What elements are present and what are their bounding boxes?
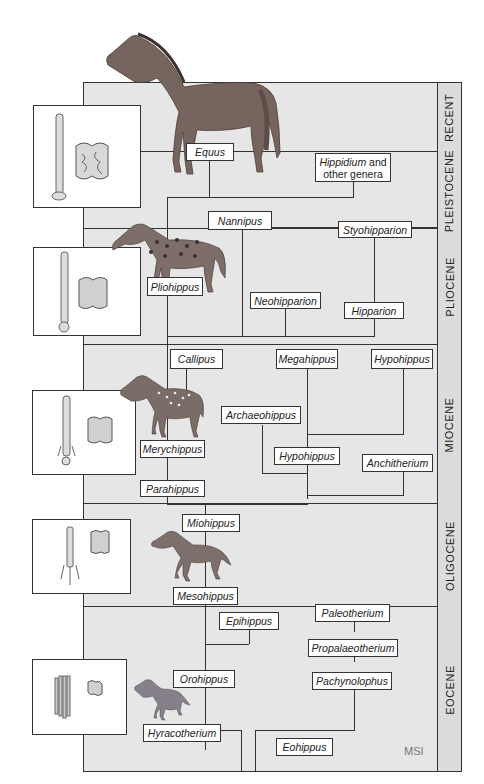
genus-eohippus: Eohippus [276, 738, 333, 756]
equus-horse-illustration [80, 20, 290, 195]
connector [374, 237, 375, 302]
boundary-oligocene-eocene [83, 606, 462, 607]
boundary-pliocene-miocene [83, 344, 462, 345]
genus-orohippus: Orohippus [173, 670, 235, 688]
connector [249, 630, 250, 644]
connector [205, 644, 249, 645]
epoch-pleistocene: PLEISTOCENE [438, 152, 461, 229]
connector [167, 336, 375, 337]
connector [354, 622, 355, 632]
genus-propalaeotherium: Propalaeotherium [308, 639, 398, 657]
genus-megahippus: Megahippus [276, 349, 338, 369]
genus-hippidium-and-other-genera: Hippidium and other genera [315, 153, 391, 182]
genus-callipus: Callipus [170, 349, 223, 369]
epoch-eocene: EOCENE [438, 607, 461, 773]
foot-bones-and-molar-icon [33, 520, 130, 593]
genus-paleotherium: Paleotherium [315, 604, 390, 622]
genus-hippidium: Hippidium [319, 156, 366, 168]
connector [307, 495, 404, 496]
connector [167, 504, 308, 505]
genus-merychippus: Merychippus [140, 440, 205, 458]
genus-pachynolophus: Pachynolophus [312, 672, 392, 690]
epoch-pliocene: PLIOCENE [438, 229, 461, 345]
connector [272, 227, 338, 228]
genus-hyracotherium: Hyracotherium [143, 724, 221, 742]
genus-pliohippus: Pliohippus [147, 277, 203, 296]
inset-oligocene-foot-tooth [32, 519, 131, 594]
genus-anchitherium: Anchitherium [362, 454, 433, 472]
connector [255, 730, 355, 731]
connector [285, 305, 286, 336]
mesohippus-horse-illustration [150, 524, 240, 594]
connector [255, 730, 256, 772]
connector [403, 369, 404, 434]
epoch-oligocene: OLIGOCENE [438, 504, 461, 607]
genus-parahippus: Parahippus [140, 480, 205, 497]
connector [354, 690, 355, 730]
foot-bones-and-molar-icon [33, 660, 126, 734]
connector [412, 227, 438, 228]
connector [242, 230, 243, 336]
genus-nannipus: Nannipus [208, 211, 272, 230]
genus-hypohippus-lower: Hypohippus [274, 447, 340, 465]
horse-evolution-diagram: RECENT PLEISTOCENE PLIOCENE MIOCENE OLIG… [0, 0, 484, 784]
epoch-recent: RECENT [438, 83, 461, 152]
epoch-column: RECENT PLEISTOCENE PLIOCENE MIOCENE OLIG… [437, 82, 462, 772]
genus-neohipparion: Neohipparion [250, 292, 321, 309]
artist-signature: MSI [404, 745, 424, 757]
connector [307, 434, 404, 435]
genus-epihippus: Epihippus [219, 612, 279, 630]
connector [403, 471, 404, 495]
merychippus-horse-illustration [117, 365, 212, 440]
connector [354, 657, 355, 662]
genus-archaeohippus: Archaeohippus [221, 406, 301, 424]
connector [262, 473, 308, 474]
connector [262, 425, 263, 473]
genus-equus: Equus [186, 143, 234, 161]
connector [220, 730, 241, 731]
connector [168, 197, 354, 198]
genus-hipparion: Hipparion [344, 302, 404, 319]
inset-eocene-foot-tooth [32, 659, 127, 735]
genus-mesohippus: Mesohippus [173, 587, 238, 605]
genus-styohipparion: Styohipparion [338, 221, 412, 238]
epoch-miocene: MIOCENE [438, 345, 461, 504]
connector [241, 730, 242, 772]
connector [353, 182, 354, 197]
connector [374, 319, 375, 336]
genus-hypohippus-upper: Hypohippus [371, 349, 433, 369]
genus-miohippus: Miohippus [182, 514, 240, 532]
